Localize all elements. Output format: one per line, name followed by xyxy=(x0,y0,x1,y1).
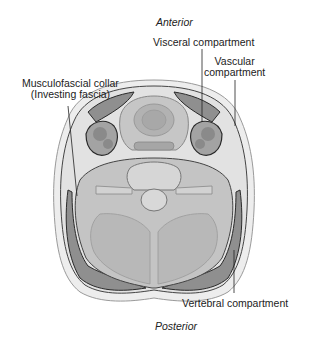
vertebral-body xyxy=(127,162,181,190)
anterior-label: Anterior xyxy=(156,17,193,28)
neck-cross-section-diagram xyxy=(0,0,309,343)
visceral-compartment-label: Visceral compartment xyxy=(153,37,254,48)
vertebral-compartment-label: Vertebral compartment xyxy=(182,298,288,309)
spinal-cord xyxy=(141,189,167,211)
jugular-left xyxy=(103,139,113,149)
jugular-right xyxy=(195,139,205,149)
carotid-left xyxy=(93,127,107,141)
trachea-lumen xyxy=(142,110,166,130)
esophagus xyxy=(134,142,174,150)
musculofascial-label-line2: (Investing fascia) xyxy=(22,89,119,100)
vascular-compartment-label: Vascular compartment xyxy=(204,56,265,78)
carotid-right xyxy=(201,127,215,141)
vascular-label-line2: compartment xyxy=(204,67,265,78)
posterior-label: Posterior xyxy=(155,321,197,332)
musculofascial-collar-label: Musculofascial collar (Investing fascia) xyxy=(22,78,119,100)
